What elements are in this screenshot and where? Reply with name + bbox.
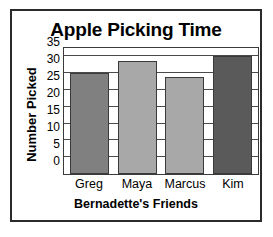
x-tick-label: Maya <box>113 177 161 191</box>
y-tick-label: 0 <box>34 154 60 168</box>
x-tick-label: Kim <box>209 177 257 191</box>
chart-frame: Apple Picking Time Number Picked 0510152… <box>10 9 262 222</box>
bar-slot <box>114 48 162 174</box>
bar-slot <box>209 48 257 174</box>
bar-maya[interactable] <box>118 61 157 174</box>
y-tick-label: 25 <box>34 69 60 83</box>
y-tick-label: 30 <box>34 52 60 66</box>
x-axis-tick-labels: GregMayaMarcusKim <box>63 177 259 191</box>
y-tick-label: 15 <box>34 103 60 117</box>
bar-greg[interactable] <box>70 73 109 174</box>
y-tick-label: 35 <box>34 35 60 49</box>
bar-slot <box>66 48 114 174</box>
bar-series <box>64 48 258 174</box>
y-axis-tick-labels: 05101520253035 <box>34 47 60 175</box>
y-tick-label: 10 <box>34 120 60 134</box>
bar-kim[interactable] <box>213 56 252 174</box>
x-tick-label: Marcus <box>161 177 209 191</box>
plot-area <box>63 47 259 175</box>
bar-slot <box>161 48 209 174</box>
y-tick-label: 5 <box>34 137 60 151</box>
x-tick-label: Greg <box>65 177 113 191</box>
y-tick-label: 20 <box>34 86 60 100</box>
bar-marcus[interactable] <box>165 77 204 174</box>
x-axis-label: Bernadette's Friends <box>12 197 260 211</box>
